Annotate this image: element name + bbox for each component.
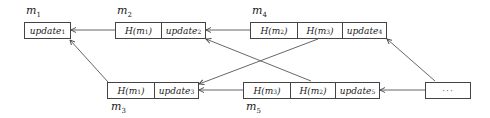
edge-m4-to-m3 (199, 39, 318, 84)
cell-hash: H(m1) (116, 23, 161, 38)
cell-update: update1 (25, 23, 70, 38)
cell-hash: H(m3) (297, 23, 342, 38)
node-label-m3: m3 (111, 100, 126, 115)
cell-update: update3 (154, 83, 198, 98)
cell-hash: H(m2) (290, 83, 335, 98)
node-m2: H(m1) update2 (115, 22, 206, 39)
edge-more-to-m4 (387, 39, 435, 81)
node-m1: update1 (24, 22, 71, 39)
cell-hash: H(m3) (244, 83, 290, 98)
diagram-canvas: m1 update1 m2 H(m1) update2 m4 H(m2) H(m… (0, 0, 490, 118)
node-label-m5: m5 (246, 100, 261, 115)
cell-hash: H(m1) (108, 83, 154, 98)
node-label-m2: m2 (117, 4, 132, 19)
edges-layer (0, 0, 490, 118)
node-m3: H(m1) update3 (107, 82, 199, 99)
node-more: ··· (425, 82, 471, 99)
cell-update: update5 (335, 83, 379, 98)
node-label-m1: m1 (26, 4, 41, 19)
cell-hash: H(m2) (251, 23, 297, 38)
node-m5: H(m3) H(m2) update5 (243, 82, 380, 99)
edge-m5-to-m2 (206, 39, 311, 81)
ellipsis: ··· (426, 83, 470, 98)
node-label-m4: m4 (252, 4, 267, 19)
cell-update: update4 (342, 23, 386, 38)
cell-update: update2 (161, 23, 205, 38)
node-m4: H(m2) H(m3) update4 (250, 22, 387, 39)
edge-m3-to-m1 (70, 40, 108, 82)
